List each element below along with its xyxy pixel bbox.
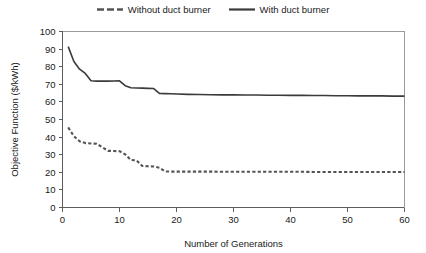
x-tick-label: 50	[342, 214, 353, 225]
y-tick-label: 0	[50, 202, 55, 213]
line-chart-svg: 0102030405060708090100 0102030405060 Obj…	[0, 0, 426, 253]
y-tick-label: 90	[45, 44, 56, 55]
y-tick-label: 100	[40, 26, 56, 37]
axes-frame	[63, 32, 405, 208]
series-line-solid	[68, 47, 404, 96]
y-tick-label: 70	[45, 79, 56, 90]
x-tick-label: 60	[399, 214, 410, 225]
data-series-group	[68, 47, 404, 172]
y-tick-label: 60	[45, 96, 56, 107]
x-tick-label: 20	[171, 214, 182, 225]
plot-area: 0102030405060708090100 0102030405060 Obj…	[0, 0, 426, 253]
x-tick-label: 0	[60, 214, 65, 225]
x-axis-title: Number of Generations	[184, 238, 283, 249]
y-tick-label: 10	[45, 184, 56, 195]
x-tick-label: 40	[285, 214, 296, 225]
y-tick-label: 30	[45, 149, 56, 160]
series-line-dashed	[68, 127, 404, 172]
x-axis-ticks: 0102030405060	[60, 208, 410, 225]
figure-container: Without duct burner With duct burner 010…	[0, 0, 426, 253]
y-tick-label: 50	[45, 114, 56, 125]
y-tick-label: 80	[45, 61, 56, 72]
y-tick-label: 40	[45, 132, 56, 143]
y-tick-label: 20	[45, 167, 56, 178]
x-tick-label: 30	[228, 214, 239, 225]
x-tick-label: 10	[114, 214, 125, 225]
y-axis-title: Objective Function ($/kWh)	[9, 62, 20, 177]
y-axis-ticks: 0102030405060708090100	[40, 26, 63, 213]
